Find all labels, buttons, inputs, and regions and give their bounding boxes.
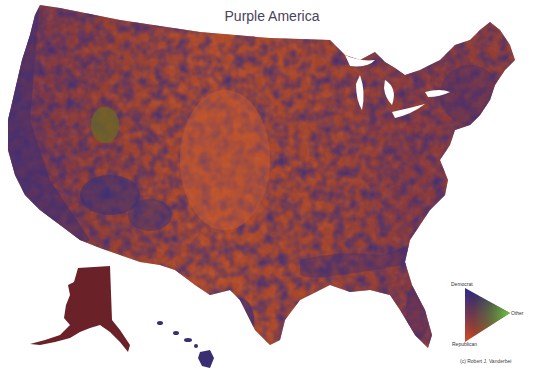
- legend-label-democrat: Democrat: [451, 281, 473, 287]
- credit-text: (c) Robert J. Vanderbei: [460, 358, 511, 364]
- alaska: [30, 266, 130, 352]
- legend-label-republican: Republican: [452, 341, 477, 347]
- legend-triangle: [465, 288, 510, 342]
- hawaii: [157, 321, 214, 368]
- us-county-map: [0, 0, 544, 378]
- legend-label-other: Other: [511, 310, 524, 316]
